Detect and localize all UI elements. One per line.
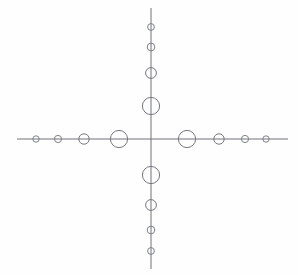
cross-axis-diagram — [0, 0, 298, 275]
figure-canvas: Two perpendicular straight lines crossin… — [0, 0, 298, 275]
axis-lines-group — [17, 8, 288, 269]
